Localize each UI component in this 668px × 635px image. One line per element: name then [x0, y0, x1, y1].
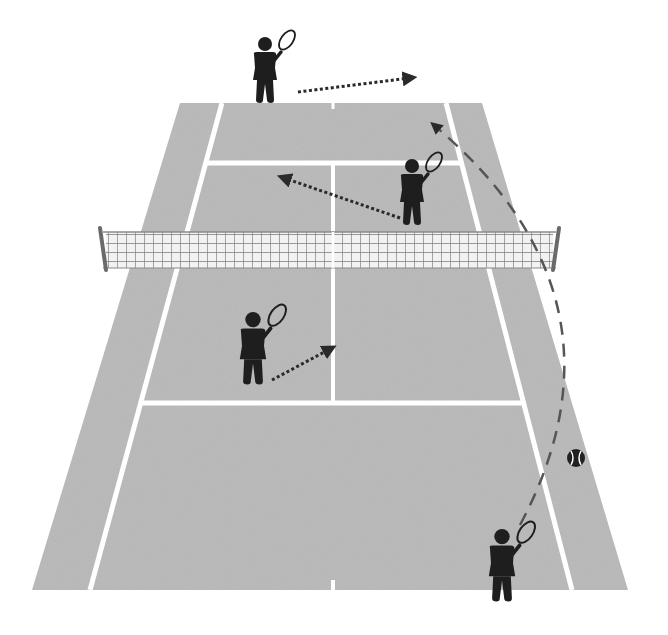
tennis-net [100, 228, 559, 270]
net-post-left [100, 228, 106, 270]
tennis-court [32, 103, 628, 590]
far-baseline-move-arrow-icon [298, 78, 410, 92]
net-post-right [553, 228, 559, 270]
tennis-diagram: Tennis doubles court positioning diagram [0, 0, 668, 635]
tennis-ball-icon [567, 449, 585, 467]
court-canvas [0, 0, 668, 635]
net-mesh [106, 232, 553, 268]
court-surface [32, 103, 628, 590]
far-baseline-player-icon [253, 28, 298, 103]
